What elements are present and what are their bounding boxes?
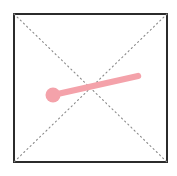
pink-dot-endpoint (46, 88, 61, 103)
square-with-diagonals-and-pink-vector (0, 0, 177, 176)
figure-canvas (0, 0, 177, 176)
